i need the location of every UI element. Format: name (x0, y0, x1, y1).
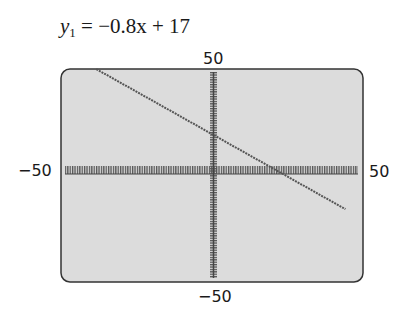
x-max-label: 50 (369, 162, 389, 181)
x-min-label: −50 (18, 161, 52, 180)
y-min-label: −50 (198, 287, 232, 306)
y-max-label: 50 (203, 49, 223, 68)
